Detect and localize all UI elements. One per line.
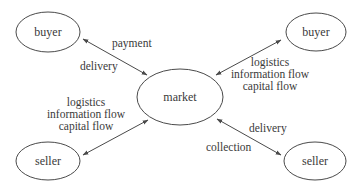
node-seller-right: seller bbox=[284, 142, 346, 180]
edge-label-information-flow-right: information flow bbox=[231, 68, 310, 80]
edge-label-capital-flow-right: capital flow bbox=[243, 80, 298, 93]
node-seller-left: seller bbox=[16, 142, 80, 180]
edge-label-payment: payment bbox=[112, 37, 152, 50]
seller-left-label: seller bbox=[35, 154, 61, 168]
node-buyer-left: buyer bbox=[16, 12, 80, 52]
edge-label-delivery-top: delivery bbox=[80, 60, 118, 73]
market-label: market bbox=[163, 90, 197, 104]
buyer-left-label: buyer bbox=[34, 25, 61, 39]
seller-right-label: seller bbox=[302, 154, 328, 168]
edge-label-delivery-bottom: delivery bbox=[249, 122, 287, 135]
market-flow-diagram: buyer buyer market seller seller payment… bbox=[0, 0, 361, 192]
node-market: market bbox=[137, 69, 223, 125]
edge-label-collection: collection bbox=[206, 141, 252, 153]
edge-label-capital-flow-left: capital flow bbox=[59, 120, 114, 133]
node-buyer-right: buyer bbox=[286, 13, 346, 51]
buyer-right-label: buyer bbox=[302, 25, 329, 39]
edge-label-information-flow-left: information flow bbox=[47, 108, 126, 120]
